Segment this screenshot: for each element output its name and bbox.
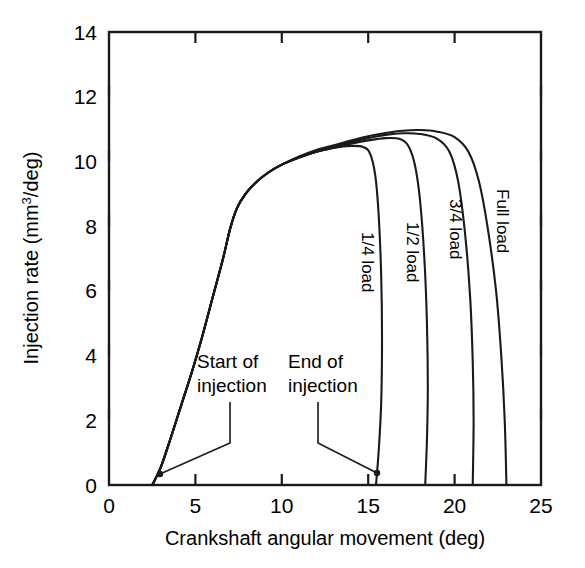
svg-text:Injection rate (mm3/deg): Injection rate (mm3/deg): [19, 152, 42, 365]
y-tick-label: 6: [85, 279, 97, 302]
series-label-three-quarter-load: 3/4 load: [446, 199, 465, 260]
svg-text:1/4 load: 1/4 load: [358, 232, 377, 293]
x-tick-label: 0: [103, 494, 115, 517]
series-label-half-load: 1/2 load: [403, 222, 422, 283]
y-tick-label: 14: [74, 21, 98, 44]
x-tick-labels: 0 5 10 15 20 25: [103, 494, 553, 517]
y-tick-label: 12: [74, 85, 97, 108]
y-axis-title-prefix: Injection rate (mm: [20, 204, 42, 364]
annotation-end-line2: injection: [288, 375, 358, 396]
svg-text:1/2 load: 1/2 load: [403, 222, 422, 283]
y-axis-title: Injection rate (mm3/deg): [19, 152, 42, 365]
annotation-start-line1: Start of: [197, 351, 259, 372]
y-tick-label: 0: [85, 474, 97, 497]
x-axis-title: Crankshaft angular movement (deg): [165, 527, 485, 549]
y-axis-title-superscript: 3: [19, 197, 34, 204]
x-tick-label: 20: [443, 494, 466, 517]
y-tick-label: 8: [85, 215, 97, 238]
y-tick-label: 2: [85, 409, 97, 432]
series-label-quarter-load: 1/4 load: [358, 232, 377, 293]
y-tick-labels: 0 2 4 6 8 10 12 14: [74, 21, 98, 497]
x-tick-label: 25: [529, 494, 552, 517]
y-axis-title-suffix: /deg): [20, 152, 42, 198]
svg-text:Full load: Full load: [493, 189, 512, 253]
caption-strip: [0, 554, 585, 568]
x-tick-label: 10: [270, 494, 293, 517]
annotation-end-marker-dot: [374, 470, 380, 476]
series-label-full-load: Full load: [493, 189, 512, 253]
annotation-end-line1: End of: [288, 351, 344, 372]
y-tick-label: 10: [74, 150, 97, 173]
figure-container: 0 5 10 15 20 25 0 2 4 6 8 10 12 14 Crank…: [0, 0, 585, 568]
annotation-start-line2: injection: [197, 375, 267, 396]
x-tick-label: 5: [190, 494, 202, 517]
x-tick-label: 15: [357, 494, 380, 517]
injection-rate-chart: 0 5 10 15 20 25 0 2 4 6 8 10 12 14 Crank…: [0, 0, 585, 568]
annotation-start-marker-dot: [157, 471, 163, 477]
y-tick-label: 4: [85, 344, 97, 367]
svg-text:3/4 load: 3/4 load: [446, 199, 465, 260]
plot-frame: [109, 32, 541, 485]
